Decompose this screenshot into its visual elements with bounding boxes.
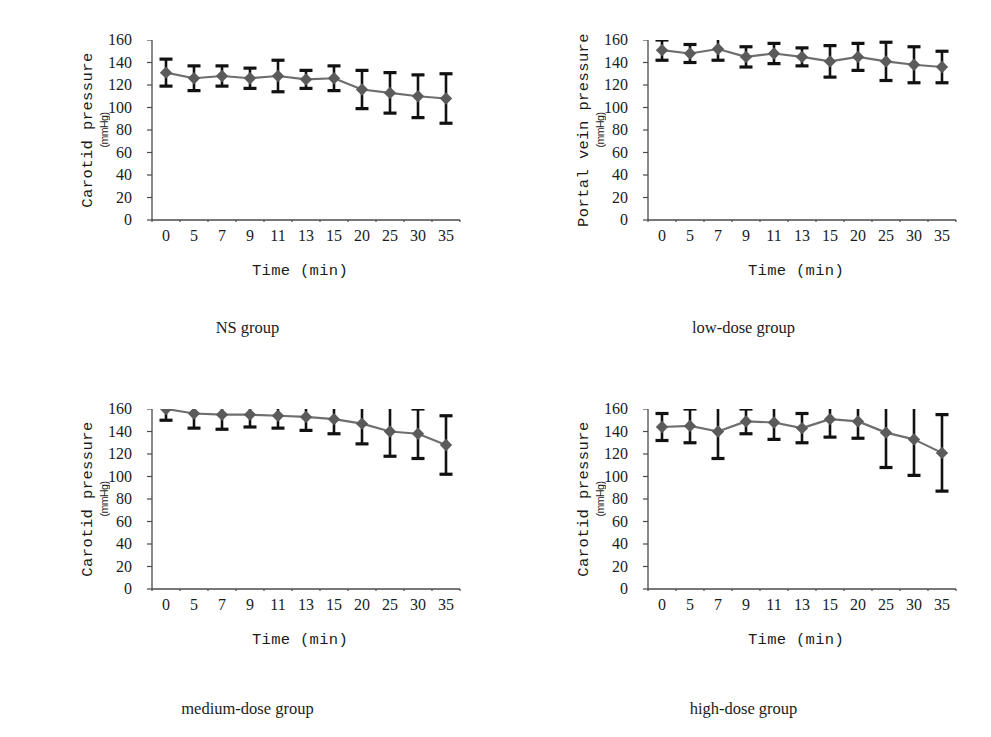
y-axis-tick-label: 80	[116, 122, 132, 138]
y-axis-tick-label: 0	[124, 212, 132, 228]
x-axis-title: Time (min)	[634, 631, 958, 649]
x-axis-tick-label: 11	[270, 228, 285, 244]
x-axis-tick-label: 5	[686, 597, 694, 613]
y-axis-tick-label: 60	[116, 514, 132, 530]
x-axis-tick-label: 35	[934, 597, 950, 613]
chart-panel-medium-dose-group: Carotid pressure (mmHg) 0204060801001201…	[0, 369, 495, 737]
data-point-marker	[272, 410, 284, 422]
data-point-marker	[272, 70, 284, 82]
data-point-marker	[216, 70, 228, 82]
data-point-marker	[712, 43, 724, 55]
data-point-marker	[740, 415, 752, 427]
y-axis-tick-label: 80	[612, 122, 628, 138]
data-point-marker	[656, 421, 668, 433]
y-axis-tick-label: 40	[116, 536, 132, 552]
y-axis-tick-label: 120	[604, 77, 628, 93]
x-axis-tick-label: 25	[382, 228, 398, 244]
x-axis-tick-label: 15	[326, 597, 342, 613]
y-axis-tick-label: 140	[604, 55, 628, 71]
plot-area-wrapper: 020406080100120140160	[78, 40, 478, 222]
data-point-marker	[712, 425, 724, 437]
y-axis-title: Carotid pressure (mmHg)	[522, 409, 568, 589]
data-point-marker	[384, 425, 396, 437]
data-point-marker	[216, 409, 228, 421]
data-point-marker	[684, 420, 696, 432]
x-axis-tick-label: 7	[218, 597, 226, 613]
x-axis-tick-label: 25	[878, 228, 894, 244]
y-axis-tick-label: 100	[604, 100, 628, 116]
x-axis-tick-label: 20	[354, 597, 370, 613]
x-axis-tick-label: 30	[906, 597, 922, 613]
data-point-marker	[656, 44, 668, 56]
y-axis-tick-label: 0	[620, 581, 628, 597]
x-axis-tick-label: 11	[270, 597, 285, 613]
x-axis-tick-label: 9	[246, 228, 254, 244]
y-axis-tick-label: 20	[116, 190, 132, 206]
data-point-marker	[936, 447, 948, 459]
x-axis-tick-label: 5	[190, 228, 198, 244]
y-axis-tick-label: 40	[116, 167, 132, 183]
data-point-marker	[244, 409, 256, 421]
y-axis-tick-labels: 020406080100120140160	[574, 40, 632, 220]
x-axis-tick-label: 5	[190, 597, 198, 613]
x-axis-title: Time (min)	[138, 631, 462, 649]
y-axis-title: Portal vein pressure (mmHg)	[522, 40, 568, 220]
chart-panel-low-dose-group: Portal vein pressure (mmHg) 020406080100…	[496, 0, 991, 368]
data-point-marker	[328, 413, 340, 425]
chart-panel-high-dose-group: Carotid pressure (mmHg) 0204060801001201…	[496, 369, 991, 737]
data-point-marker	[880, 426, 892, 438]
data-point-marker	[852, 51, 864, 63]
y-axis-tick-label: 60	[612, 514, 628, 530]
data-point-marker	[412, 428, 424, 440]
x-axis-tick-label: 9	[742, 228, 750, 244]
panel-caption: low-dose group	[496, 318, 991, 338]
plot-canvas	[138, 409, 462, 589]
y-axis-tick-label: 100	[604, 469, 628, 485]
data-point-marker	[328, 72, 340, 84]
x-axis-tick-label: 13	[298, 228, 314, 244]
y-axis-tick-label: 140	[108, 55, 132, 71]
y-axis-tick-label: 100	[108, 469, 132, 485]
x-axis-tick-label: 7	[218, 228, 226, 244]
y-axis-tick-label: 0	[620, 212, 628, 228]
y-axis-tick-labels: 020406080100120140160	[78, 40, 136, 220]
data-point-marker	[740, 51, 752, 63]
y-axis-tick-label: 160	[604, 32, 628, 48]
y-axis-tick-label: 120	[108, 446, 132, 462]
y-axis-tick-label: 40	[612, 536, 628, 552]
data-point-marker	[356, 83, 368, 95]
x-axis-tick-label: 30	[906, 228, 922, 244]
error-bars-group	[656, 409, 949, 491]
panel-caption: NS group	[0, 318, 495, 338]
data-point-marker	[796, 422, 808, 434]
data-point-marker	[880, 55, 892, 67]
y-axis-tick-label: 0	[124, 581, 132, 597]
x-axis-tick-label: 25	[878, 597, 894, 613]
x-axis-tick-label: 15	[822, 228, 838, 244]
data-point-marker	[440, 92, 452, 104]
x-axis-tick-label: 11	[766, 228, 781, 244]
data-point-marker	[908, 433, 920, 445]
y-axis-tick-label: 120	[108, 77, 132, 93]
data-point-marker	[188, 72, 200, 84]
y-axis-tick-label: 80	[116, 491, 132, 507]
data-point-marker	[768, 47, 780, 59]
error-bars-group	[160, 59, 453, 123]
y-axis-tick-label: 80	[612, 491, 628, 507]
x-axis-tick-label: 20	[850, 228, 866, 244]
data-point-marker	[796, 51, 808, 63]
data-point-marker	[160, 409, 172, 415]
y-axis-tick-label: 40	[612, 167, 628, 183]
data-point-marker	[384, 87, 396, 99]
x-axis-tick-label: 9	[246, 597, 254, 613]
x-axis-tick-label: 15	[822, 597, 838, 613]
x-axis-tick-label: 7	[714, 228, 722, 244]
chart-svg	[138, 40, 462, 222]
x-axis-tick-labels: 057911131520253035	[138, 228, 462, 250]
x-axis-tick-label: 13	[794, 228, 810, 244]
data-point-marker	[824, 413, 836, 425]
chart-svg	[138, 409, 462, 591]
plot-area-wrapper: 020406080100120140160	[78, 409, 478, 591]
data-point-marker	[300, 73, 312, 85]
data-point-marker	[768, 416, 780, 428]
